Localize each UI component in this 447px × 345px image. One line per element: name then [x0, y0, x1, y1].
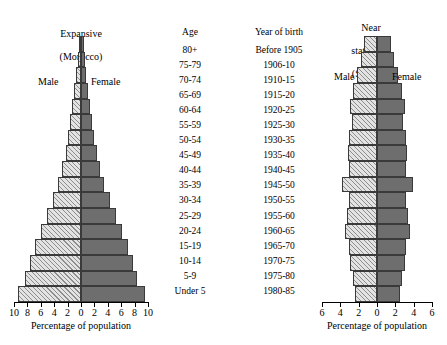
left-male-bar [53, 192, 81, 208]
table-row [322, 224, 432, 240]
right-x-tick-label: 0 [367, 306, 387, 319]
table-row [322, 239, 432, 255]
table-row [14, 161, 148, 177]
year-of-birth-label: 1965-70 [236, 239, 322, 254]
right-female-bar [377, 52, 394, 68]
age-label: 55-59 [160, 118, 220, 133]
right-female-bar [377, 271, 402, 287]
left-x-axis-title: Percentage of population [6, 320, 156, 332]
table-row [322, 114, 432, 130]
table-row [322, 145, 432, 161]
age-column-header: Age [160, 26, 220, 43]
left-female-label: Female [91, 76, 120, 88]
right-x-axis-title: Percentage of population [312, 320, 442, 332]
age-label: 65-69 [160, 88, 220, 103]
left-male-bar [35, 239, 81, 255]
left-male-bar [47, 208, 81, 224]
right-female-bar [377, 83, 402, 99]
age-label: 30-34 [160, 193, 220, 208]
left-female-bar [81, 208, 116, 224]
age-label: 40-44 [160, 163, 220, 178]
left-male-bar [30, 255, 81, 271]
table-row [322, 83, 432, 99]
population-pyramid-figure: Expansive (Morocco) Near stationary (Swe… [0, 0, 447, 345]
left-female-bar [81, 145, 97, 161]
year-of-birth-column: Year of birth Before 19051906-101910-151… [236, 26, 322, 299]
right-x-tick-label: 4 [330, 306, 350, 319]
right-male-bar [357, 67, 377, 83]
right-male-bar [348, 145, 377, 161]
left-female-bar [81, 224, 122, 240]
left-male-bar [58, 177, 81, 193]
right-male-bar [349, 161, 377, 177]
year-of-birth-label: 1945-50 [236, 178, 322, 193]
right-x-tick-label: 4 [404, 306, 424, 319]
right-female-label: Female [392, 71, 421, 83]
left-pyramid-plot [14, 36, 148, 302]
right-female-bar [377, 145, 407, 161]
left-male-bar [41, 224, 81, 240]
table-row [14, 99, 148, 115]
table-row [14, 271, 148, 287]
left-x-axis [14, 302, 148, 303]
right-female-bar [377, 192, 406, 208]
right-male-bar [353, 271, 377, 287]
right-female-bar [377, 177, 413, 193]
table-row [14, 239, 148, 255]
right-male-label: Male [334, 71, 355, 83]
left-female-bar [81, 99, 90, 115]
left-male-label: Male [38, 76, 59, 88]
right-male-bar [342, 177, 377, 193]
left-female-bar [81, 52, 85, 68]
left-female-bar [81, 161, 100, 177]
left-pyramid-rows [14, 36, 148, 302]
left-female-bar [81, 130, 94, 146]
table-row [14, 83, 148, 99]
age-label: 50-54 [160, 133, 220, 148]
table-row [14, 145, 148, 161]
table-row [14, 36, 148, 52]
table-row [14, 177, 148, 193]
table-row [14, 286, 148, 302]
year-of-birth-label: 1970-75 [236, 254, 322, 269]
right-x-tick-label: 6 [422, 306, 442, 319]
year-of-birth-label: 1980-85 [236, 284, 322, 299]
left-male-bar [66, 145, 81, 161]
age-label: 10-14 [160, 254, 220, 269]
left-male-bar [74, 83, 81, 99]
right-female-bar [377, 255, 405, 271]
right-x-tick-label: 6 [312, 306, 332, 319]
table-row [14, 114, 148, 130]
year-of-birth-label: 1960-65 [236, 224, 322, 239]
left-female-bar [81, 192, 110, 208]
left-male-bar [70, 114, 81, 130]
left-female-bar [81, 271, 137, 287]
right-female-bar [377, 286, 400, 302]
left-x-tick-label: 10 [138, 306, 158, 319]
year-of-birth-label: 1955-60 [236, 209, 322, 224]
right-male-bar [350, 99, 378, 115]
table-row [322, 192, 432, 208]
age-label: 35-39 [160, 178, 220, 193]
table-row [14, 208, 148, 224]
right-male-bar [345, 224, 377, 240]
table-row [322, 286, 432, 302]
table-row [14, 67, 148, 83]
left-female-bar [81, 239, 128, 255]
age-label: 5-9 [160, 269, 220, 284]
right-female-bar [377, 161, 406, 177]
table-row [322, 99, 432, 115]
right-male-bar [364, 36, 377, 52]
table-row [322, 130, 432, 146]
table-row [14, 130, 148, 146]
year-of-birth-label: 1906-10 [236, 58, 322, 73]
table-row [14, 52, 148, 68]
year-of-birth-label: 1975-80 [236, 269, 322, 284]
right-male-bar [361, 52, 377, 68]
year-of-birth-label: 1940-45 [236, 163, 322, 178]
year-of-birth-label: 1950-55 [236, 193, 322, 208]
right-female-bar [377, 239, 406, 255]
right-male-bar [352, 114, 377, 130]
year-of-birth-label: 1930-35 [236, 133, 322, 148]
year-of-birth-column-header: Year of birth [236, 26, 322, 43]
